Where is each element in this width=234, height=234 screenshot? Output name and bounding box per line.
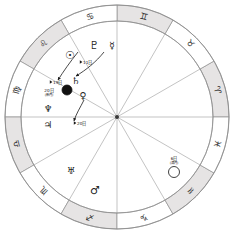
moon-marker-layer: 20日(新月)6日(満月): [44, 85, 179, 178]
planet-glyph-mercury: ☿: [109, 40, 115, 51]
astrology-chart: ♑♐♏♎♍♌♋♊♉♈♓♒ ☉♇☿♄♀♆♃♅♂ 20日(新月)6日(満月) 19日…: [0, 0, 234, 234]
planet-glyph-jupiter: ♃: [44, 119, 53, 130]
planet-glyph-uranus: ♅: [67, 165, 76, 176]
planet-glyph-saturn: ♄: [72, 75, 81, 86]
house-spoke: [117, 117, 165, 200]
planet-glyph-pluto: ♇: [89, 39, 99, 52]
planet-glyph-venus: ♀: [80, 90, 87, 101]
house-spoke: [117, 117, 200, 165]
day-20b-label-marker: [74, 121, 77, 125]
day-11-label-marker: [80, 60, 83, 64]
day-19-label-marker: [50, 80, 53, 84]
chart-hub: [115, 115, 119, 119]
planet-glyph-layer: ☉♇☿♄♀♆♃♅♂: [44, 39, 115, 197]
arrow-venus-down: [74, 100, 84, 121]
house-spoke: [117, 69, 200, 117]
house-spoke: [117, 34, 165, 117]
planet-glyph-mars: ♂: [90, 184, 100, 197]
planet-glyph-sun: ☉: [65, 49, 75, 62]
moon-marker-new-moon: [62, 85, 72, 95]
day-20b-label: 20日: [77, 121, 86, 127]
moon-marker-full-moon: [169, 167, 180, 178]
planet-glyph-neptune: ♆: [44, 103, 53, 114]
full-moon-phase-label: (満月): [170, 160, 179, 165]
new-moon-phase-label: (新月): [45, 92, 54, 97]
day-11-label: 11日: [83, 60, 92, 66]
